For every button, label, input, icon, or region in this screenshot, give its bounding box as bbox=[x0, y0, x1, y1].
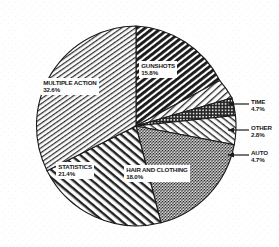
pie-slices bbox=[36, 26, 236, 226]
callout-label-auto-text: AUTO bbox=[251, 149, 268, 156]
callout-label-time-value: 4.7% bbox=[251, 105, 265, 112]
callout-label-other-text: OTHER bbox=[251, 124, 272, 131]
callout-label-auto: AUTO 4.7% bbox=[251, 149, 268, 164]
pie-chart: MULTIPLE ACTION 32.6% GUNSHOTS 15.8% STA… bbox=[0, 0, 279, 247]
slice-label-statistics: STATISTICS 21.4% bbox=[56, 162, 94, 179]
callout-label-time: TIME 4.7% bbox=[251, 98, 265, 113]
slice-label-gunshots-value: 15.8% bbox=[141, 69, 175, 76]
callout-label-time-text: TIME bbox=[251, 98, 265, 105]
callout-label-other: OTHER 2.8% bbox=[251, 124, 272, 139]
callout-label-auto-value: 4.7% bbox=[251, 156, 268, 163]
slice-label-multiple-action-value: 32.6% bbox=[43, 86, 96, 93]
slice-label-gunshots-text: GUNSHOTS bbox=[141, 62, 175, 69]
slice-label-gunshots: GUNSHOTS 15.8% bbox=[139, 61, 177, 78]
slice-label-hair-and-clothing-value: 18.0% bbox=[126, 173, 188, 180]
slice-label-statistics-text: STATISTICS bbox=[58, 163, 92, 170]
callout-label-other-value: 2.8% bbox=[251, 131, 272, 138]
slice-label-hair-and-clothing-text: HAIR AND CLOTHING bbox=[126, 166, 188, 173]
slice-label-hair-and-clothing: HAIR AND CLOTHING 18.0% bbox=[124, 165, 190, 182]
slice-label-multiple-action: MULTIPLE ACTION 32.6% bbox=[41, 78, 99, 95]
slice-label-statistics-value: 21.4% bbox=[58, 170, 92, 177]
pie-chart-canvas bbox=[0, 0, 279, 247]
slice-label-multiple-action-text: MULTIPLE ACTION bbox=[43, 79, 96, 86]
